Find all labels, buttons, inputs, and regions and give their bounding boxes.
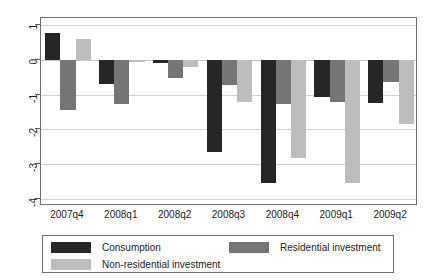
legend-label-consumption: Consumption bbox=[102, 242, 161, 253]
bar-2009q1-non-residential-investment bbox=[345, 60, 360, 183]
legend-swatch-non-residential-investment bbox=[51, 259, 91, 270]
y-tick-label-3: -2 bbox=[29, 128, 39, 137]
legend-item-residential-investment: Residential investment bbox=[229, 240, 381, 254]
x-tick-label-2008q3: 2008q3 bbox=[212, 209, 245, 220]
bar-2008q2-non-residential-investment bbox=[183, 60, 198, 67]
x-tick-label-2007q4: 2007q4 bbox=[50, 209, 83, 220]
x-tick-label-2009q1: 2009q1 bbox=[320, 209, 353, 220]
bar-2008q1-consumption bbox=[99, 60, 114, 84]
bar-2009q2-non-residential-investment bbox=[399, 60, 414, 124]
y-tick-label-4: -3 bbox=[29, 163, 39, 172]
bar-2009q1-residential-investment bbox=[330, 60, 345, 102]
bar-2008q4-residential-investment bbox=[276, 60, 291, 104]
legend-swatch-consumption bbox=[51, 242, 91, 253]
bar-2008q1-residential-investment bbox=[114, 60, 129, 105]
bar-2007q4-non-residential-investment bbox=[76, 39, 91, 60]
y-axis: 10-1-2-3-4 bbox=[0, 0, 40, 215]
x-tick-label-2009q2: 2009q2 bbox=[373, 209, 406, 220]
bar-2007q4-consumption bbox=[45, 33, 60, 60]
x-tick-label-2008q1: 2008q1 bbox=[104, 209, 137, 220]
bar-2009q1-consumption bbox=[314, 60, 329, 97]
bar-2008q2-consumption bbox=[153, 60, 168, 63]
legend-label-non-residential-investment: Non-residential investment bbox=[102, 259, 220, 270]
x-tick-label-2008q4: 2008q4 bbox=[266, 209, 299, 220]
bar-2009q2-residential-investment bbox=[383, 60, 398, 82]
legend: Consumption Residential investment Non-r… bbox=[42, 235, 394, 273]
legend-label-residential-investment: Residential investment bbox=[280, 242, 381, 253]
legend-item-non-residential-investment: Non-residential investment bbox=[51, 257, 220, 271]
legend-item-consumption: Consumption bbox=[51, 240, 161, 254]
bar-2008q4-consumption bbox=[261, 60, 276, 183]
plot-area bbox=[40, 17, 417, 205]
bar-chart: 10-1-2-3-4 2007q42008q12008q22008q32008q… bbox=[0, 0, 434, 280]
bar-2008q3-non-residential-investment bbox=[237, 60, 252, 102]
bar-2008q1-non-residential-investment bbox=[129, 60, 144, 62]
x-tick-label-2008q2: 2008q2 bbox=[158, 209, 191, 220]
bars-layer bbox=[41, 18, 416, 204]
bar-2007q4-residential-investment bbox=[60, 60, 75, 110]
x-axis: 2007q42008q12008q22008q32008q42009q12009… bbox=[40, 206, 417, 226]
bar-2008q3-consumption bbox=[207, 60, 222, 152]
bar-2008q3-residential-investment bbox=[222, 60, 237, 85]
bar-2009q2-consumption bbox=[368, 60, 383, 103]
legend-swatch-residential-investment bbox=[229, 242, 269, 253]
bar-2008q4-non-residential-investment bbox=[291, 60, 306, 159]
bar-2008q2-residential-investment bbox=[168, 60, 183, 78]
y-tick-label-5: -4 bbox=[29, 198, 39, 207]
